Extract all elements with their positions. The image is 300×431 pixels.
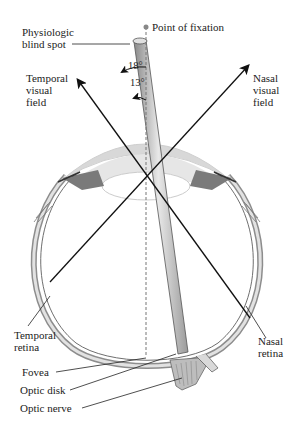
fixation-point bbox=[144, 25, 149, 30]
nasal-retina-leader bbox=[246, 306, 266, 338]
optic-nerve bbox=[170, 354, 218, 390]
label-temporal-field: Temporal visual field bbox=[26, 72, 68, 108]
label-optic-nerve: Optic nerve bbox=[20, 402, 72, 414]
temporal-field-ray bbox=[78, 80, 250, 318]
ciliary-body-left bbox=[34, 170, 104, 222]
eyeball-wall bbox=[34, 176, 261, 366]
label-temporal-retina: Temporal retina bbox=[14, 329, 56, 353]
cone-top bbox=[133, 38, 147, 44]
label-nasal-field: Nasal visual field bbox=[253, 72, 279, 108]
label-blind-spot: Physiologic blind spot bbox=[22, 26, 74, 50]
lens bbox=[102, 172, 190, 200]
angle-label-18: 18° bbox=[128, 60, 143, 71]
eye-diagram: Physiologic blind spot Point of fixation… bbox=[0, 0, 300, 431]
label-fovea: Fovea bbox=[22, 366, 49, 378]
label-optic-disk: Optic disk bbox=[20, 384, 66, 396]
angle-label-13: 13° bbox=[130, 77, 145, 88]
label-nasal-retina: Nasal retina bbox=[258, 335, 283, 359]
optic-nerve-leader bbox=[82, 378, 182, 408]
label-fixation: Point of fixation bbox=[152, 21, 224, 33]
ciliary-body-right bbox=[190, 170, 260, 222]
